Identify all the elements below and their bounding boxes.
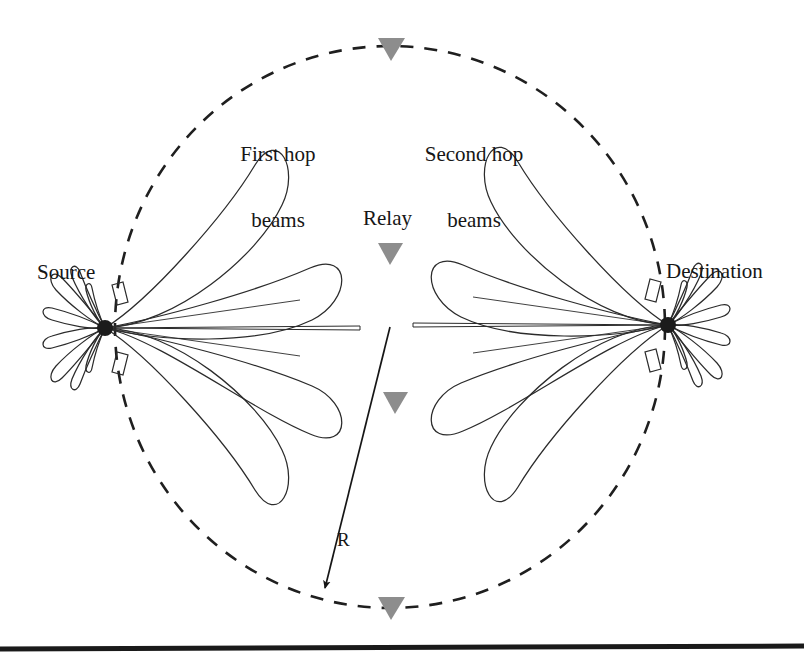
relay-label: Relay bbox=[363, 207, 412, 229]
source-label: Source bbox=[37, 261, 95, 283]
footer-rule bbox=[0, 646, 804, 649]
relay-marker-lower-middle[interactable] bbox=[383, 392, 408, 414]
first-hop-beams-line1: First hop bbox=[228, 143, 328, 165]
first-hop-beams-label: First hop beams bbox=[228, 99, 328, 275]
destination-node bbox=[660, 317, 676, 333]
second-hop-beams-line1: Second hop bbox=[414, 143, 534, 165]
relay-marker-upper-middle[interactable] bbox=[378, 243, 403, 265]
figure-canvas bbox=[0, 0, 804, 660]
radius-label: R bbox=[337, 530, 350, 550]
source-node bbox=[97, 320, 113, 336]
second-hop-beams-label: Second hop beams bbox=[414, 99, 534, 275]
radius-arrow bbox=[325, 327, 390, 588]
first-hop-beams-line2: beams bbox=[228, 209, 328, 231]
destination-label: Destination bbox=[666, 260, 763, 282]
relay-beamforming-figure: Source Destination Relay First hop beams… bbox=[0, 0, 804, 660]
relay-marker-top[interactable] bbox=[378, 38, 405, 61]
second-hop-beams-line2: beams bbox=[414, 209, 534, 231]
